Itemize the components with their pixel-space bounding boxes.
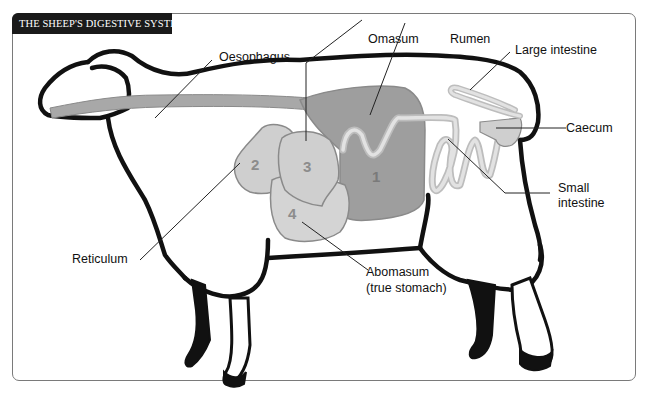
label-oesophagus: Oesophagus bbox=[219, 50, 290, 65]
label-rumen: Rumen bbox=[450, 32, 490, 47]
caecum-organ bbox=[480, 118, 522, 146]
number-omasum: 3 bbox=[303, 158, 311, 175]
large-intestine bbox=[451, 88, 520, 116]
number-abomasum: 4 bbox=[288, 205, 297, 222]
number-rumen: 1 bbox=[372, 168, 380, 185]
label-abomasum-line1: Abomasum bbox=[366, 265, 429, 280]
oesophagus-tube bbox=[50, 95, 310, 118]
label-caecum: Caecum bbox=[566, 121, 613, 136]
number-reticulum: 2 bbox=[251, 156, 259, 173]
label-small-intestine-line1: Small bbox=[558, 181, 589, 196]
label-omasum: Omasum bbox=[368, 32, 419, 47]
sheep-illustration: 1 2 3 4 bbox=[0, 0, 648, 407]
label-reticulum: Reticulum bbox=[72, 252, 128, 267]
label-abomasum-line2: (true stomach) bbox=[366, 281, 447, 296]
label-large-intestine: Large intestine bbox=[515, 43, 597, 58]
label-small-intestine-line2: intestine bbox=[558, 196, 605, 211]
